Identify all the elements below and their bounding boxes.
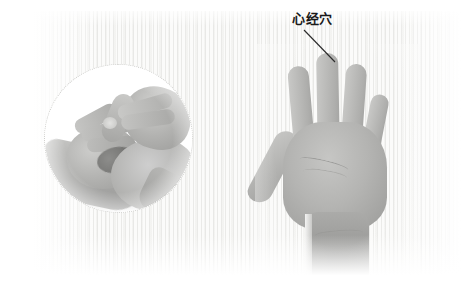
inset-vignette — [45, 65, 192, 212]
acupressure-figure: 心经穴 — [0, 0, 471, 291]
massage-technique-inset — [44, 64, 193, 213]
paper-fade-bottom — [0, 235, 471, 291]
inset-photo — [45, 65, 192, 212]
acupoint-label: 心经穴 — [292, 12, 333, 25]
paper-fade-top — [0, 0, 471, 26]
